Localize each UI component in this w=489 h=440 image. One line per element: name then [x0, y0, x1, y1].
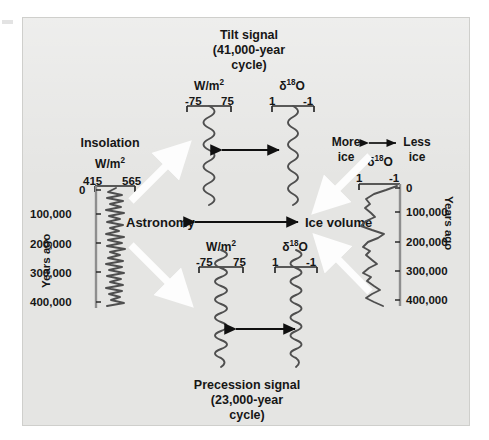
insolation-axis-title: Years ago — [40, 234, 52, 288]
ice-volume-tick-min: 1 — [356, 172, 362, 186]
ice-volume-unit: δ18O — [367, 154, 393, 169]
figure-panel-background — [23, 18, 469, 425]
ice-volume-tick-max: -1 — [389, 172, 399, 186]
insolation-y-tick-0: 0 — [79, 184, 85, 198]
tilt-title-line1: Tilt signal — [220, 28, 278, 43]
ice-volume-y-tick-100k: 100,000 — [406, 206, 448, 220]
more-ice-label-line2: ice — [338, 150, 355, 164]
precession-right-tick-min: 1 — [272, 256, 278, 270]
more-ice-label-line1: More — [332, 135, 361, 149]
astronomy-label: Astronomy — [126, 215, 195, 230]
tilt-right-tick-max: -1 — [303, 95, 313, 109]
tilt-left-unit: W/m2 — [194, 78, 224, 93]
insolation-tick-min: 415 — [83, 175, 102, 189]
precession-right-unit: δ18O — [282, 239, 308, 254]
ice-volume-y-tick-400k: 400,000 — [406, 294, 448, 308]
tilt-title-line3: cycle) — [231, 58, 266, 73]
less-ice-label-line2: ice — [409, 150, 426, 164]
insolation-title: Insolation — [80, 136, 139, 151]
tilt-right-tick-min: 1 — [269, 95, 275, 109]
tilt-title-line2: (41,000-year — [213, 43, 285, 58]
precession-title-line2: (23,000-year — [211, 393, 283, 408]
insolation-y-tick-100k: 100,000 — [30, 208, 72, 222]
insolation-tick-max: 565 — [122, 175, 141, 189]
precession-left-tick-min: -75 — [196, 256, 213, 270]
precession-title-line3: cycle) — [229, 408, 264, 423]
precession-left-unit: W/m2 — [206, 239, 236, 254]
insolation-y-tick-400k: 400,000 — [30, 296, 72, 310]
ice-volume-y-tick-0: 0 — [406, 182, 412, 196]
ice-volume-label: Ice volume — [305, 215, 372, 230]
scan-artifact — [2, 20, 13, 24]
orbital-forcing-figure: Tilt signal (41,000-year cycle) W/m2 -75… — [0, 0, 489, 440]
tilt-right-unit: δ18O — [279, 78, 305, 93]
figure-panel — [22, 17, 470, 426]
ice-volume-y-tick-300k: 300,000 — [406, 265, 448, 279]
precession-right-tick-max: -1 — [306, 256, 316, 270]
precession-left-tick-max: 75 — [233, 256, 246, 270]
insolation-unit: W/m2 — [95, 156, 125, 171]
tilt-left-tick-min: -75 — [185, 95, 202, 109]
less-ice-label-line1: Less — [403, 135, 430, 149]
ice-volume-axis-title: Years ago — [443, 196, 455, 250]
precession-title-line1: Precession signal — [194, 378, 300, 393]
ice-volume-y-tick-200k: 200,000 — [406, 236, 448, 250]
tilt-left-tick-max: 75 — [221, 95, 234, 109]
